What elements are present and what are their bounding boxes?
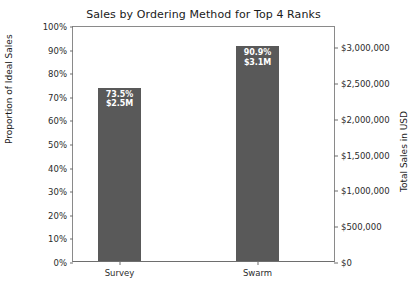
y-tickmark-left: [70, 27, 74, 28]
y-tickmark-left: [70, 50, 74, 51]
y-tickmark-left: [70, 74, 74, 75]
y-tickmark-right: [334, 227, 338, 228]
bar-swarm-amount: $3.1M: [236, 58, 279, 68]
y-tick-left-0: 0%: [13, 258, 73, 268]
y-tickmark-right: [334, 84, 338, 85]
y-tick-right-1: $500,000: [334, 222, 382, 232]
y-tickmark-left: [70, 97, 74, 98]
y-tick-left-40: 40%: [13, 164, 73, 174]
y-axis-label-right: Total Sales in USD: [399, 111, 409, 192]
plot-area: 0%10%20%30%40%50%60%70%80%90%100% $0$500…: [72, 26, 335, 262]
y-tick-left-80: 80%: [13, 69, 73, 79]
bar-swarm-percent: 90.9%: [236, 48, 279, 58]
y-tickmark-left: [70, 168, 74, 169]
y-tickmark-right: [334, 263, 338, 264]
x-tickmark: [119, 261, 120, 265]
y-tick-right-5: $2,500,000: [334, 79, 390, 89]
y-tickmark-left: [70, 263, 74, 264]
y-tickmark-left: [70, 215, 74, 216]
bar-swarm: 90.9% $3.1M: [236, 46, 279, 261]
y-tickmark-left: [70, 121, 74, 122]
y-tick-right-6: $3,000,000: [334, 43, 390, 53]
x-tickmark: [257, 261, 258, 265]
y-tick-left-90: 90%: [13, 46, 73, 56]
y-tick-left-20: 20%: [13, 211, 73, 221]
y-tickmark-right: [334, 48, 338, 49]
y-tick-left-50: 50%: [13, 140, 73, 150]
y-tickmark-left: [70, 239, 74, 240]
y-tickmark-left: [70, 192, 74, 193]
y-tick-right-2: $1,000,000: [334, 186, 390, 196]
bar-survey-amount: $2.5M: [98, 99, 141, 109]
y-tick-right-3: $1,500,000: [334, 151, 390, 161]
bar-survey-value-label: 73.5% $2.5M: [98, 90, 141, 109]
chart-figure: Sales by Ordering Method for Top 4 Ranks…: [0, 0, 410, 293]
x-tick-label-swarm: Swarm: [243, 268, 272, 278]
chart-title: Sales by Ordering Method for Top 4 Ranks: [72, 8, 335, 21]
y-tickmark-left: [70, 145, 74, 146]
bar-survey: 73.5% $2.5M: [98, 88, 141, 261]
bar-swarm-value-label: 90.9% $3.1M: [236, 48, 279, 67]
y-tick-left-60: 60%: [13, 116, 73, 126]
y-tick-left-100: 100%: [13, 22, 73, 32]
y-tickmark-right: [334, 191, 338, 192]
y-tick-right-4: $2,000,000: [334, 115, 390, 125]
x-tick-label-survey: Survey: [105, 268, 135, 278]
y-tick-left-30: 30%: [13, 187, 73, 197]
bar-survey-percent: 73.5%: [98, 90, 141, 100]
y-tickmark-right: [334, 119, 338, 120]
y-tickmark-right: [334, 155, 338, 156]
y-tick-left-70: 70%: [13, 93, 73, 103]
y-tick-left-10: 10%: [13, 234, 73, 244]
